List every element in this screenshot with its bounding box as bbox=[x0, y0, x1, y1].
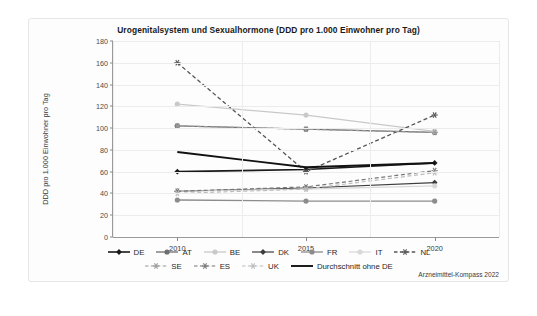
x-gridline bbox=[370, 41, 371, 237]
x-gridline bbox=[113, 41, 114, 237]
series-durchschnitt-ohne-de bbox=[177, 152, 434, 167]
x-gridline bbox=[242, 41, 243, 237]
x-tick-mark bbox=[306, 237, 307, 241]
data-point bbox=[303, 112, 308, 117]
y-gridline bbox=[113, 106, 499, 107]
y-tick-label: 140 bbox=[96, 80, 108, 89]
legend-label: ES bbox=[220, 262, 230, 271]
legend-label: FR bbox=[327, 248, 337, 257]
y-tick-label: 40 bbox=[100, 189, 108, 198]
legend-key-fr-icon bbox=[300, 247, 324, 257]
legend-item-de[interactable]: DE bbox=[107, 247, 145, 257]
y-gridline bbox=[113, 85, 499, 86]
data-point bbox=[432, 198, 437, 203]
legend-item-dk[interactable]: DK bbox=[251, 247, 289, 257]
legend-label: UK bbox=[268, 262, 279, 271]
legend-item-be[interactable]: BE bbox=[203, 247, 240, 257]
data-point bbox=[175, 197, 180, 202]
legend-key-be-icon bbox=[203, 247, 227, 257]
legend-label: NL bbox=[420, 248, 430, 257]
legend-label: DK bbox=[278, 248, 289, 257]
y-tick-label: 20 bbox=[100, 211, 108, 220]
legend-item-it[interactable]: IT bbox=[348, 247, 382, 257]
data-point bbox=[260, 249, 266, 255]
data-point bbox=[116, 249, 122, 255]
legend-key-at-icon bbox=[155, 247, 179, 257]
legend-item-es[interactable]: ES bbox=[193, 261, 230, 271]
legend-key-it-icon bbox=[348, 247, 372, 257]
chart-title: Urogenitalsystem und Sexualhormone (DDD … bbox=[29, 25, 508, 35]
series-canvas bbox=[113, 41, 499, 237]
legend-label: AT bbox=[182, 248, 191, 257]
chart-legend: DEATBEDKFRITNL SEESUKDurchschnitt ohne D… bbox=[29, 245, 508, 273]
legend-label: IT bbox=[375, 248, 382, 257]
legend-label: SE bbox=[171, 262, 181, 271]
plot-inner bbox=[113, 41, 499, 237]
y-tick-label: 100 bbox=[96, 124, 108, 133]
legend-item-fr[interactable]: FR bbox=[300, 247, 337, 257]
series-uk bbox=[174, 170, 438, 196]
data-point bbox=[309, 249, 314, 254]
y-gridline bbox=[113, 193, 499, 194]
y-tick-label: 160 bbox=[96, 58, 108, 67]
legend-key-se-icon bbox=[144, 261, 168, 271]
legend-key-es-icon bbox=[193, 261, 217, 271]
data-point bbox=[303, 198, 308, 203]
x-tick-mark bbox=[435, 237, 436, 241]
legend-item-uk[interactable]: UK bbox=[241, 261, 279, 271]
chart-figure: Urogenitalsystem und Sexualhormone (DDD … bbox=[28, 18, 509, 282]
legend-key-durchschnitt-ohne-de-icon bbox=[290, 261, 314, 271]
legend-key-uk-icon bbox=[241, 261, 265, 271]
y-tick-label: 120 bbox=[96, 102, 108, 111]
y-axis-label: DDD pro 1.000 Einwohner pro Tag bbox=[41, 93, 50, 204]
data-point bbox=[212, 249, 217, 254]
y-gridline bbox=[113, 128, 499, 129]
series-se bbox=[174, 123, 438, 135]
y-gridline bbox=[113, 150, 499, 151]
legend-label: BE bbox=[230, 248, 240, 257]
legend-label: DE bbox=[134, 248, 145, 257]
legend-key-nl-icon bbox=[393, 247, 417, 257]
y-gridline bbox=[113, 63, 499, 64]
legend-row: DEATBEDKFRITNL bbox=[29, 245, 508, 259]
legend-key-de-icon bbox=[107, 247, 131, 257]
series-fr bbox=[175, 197, 438, 203]
legend-label: Durchschnitt ohne DE bbox=[317, 262, 393, 271]
y-tick-label: 60 bbox=[100, 167, 108, 176]
y-gridline bbox=[113, 41, 499, 42]
series-line bbox=[177, 152, 434, 167]
data-point bbox=[165, 249, 170, 254]
legend-item-at[interactable]: AT bbox=[155, 247, 191, 257]
data-point bbox=[358, 249, 363, 254]
source-note: Arzneimittel-Kompass 2022 bbox=[418, 271, 499, 278]
y-tick-label: 180 bbox=[96, 37, 108, 46]
plot-area: 020406080100120140160180201020152020 bbox=[113, 41, 499, 237]
legend-item-nl[interactable]: NL bbox=[393, 247, 430, 257]
x-gridline bbox=[499, 41, 500, 237]
data-point bbox=[432, 183, 437, 188]
y-tick-label: 0 bbox=[104, 233, 108, 242]
legend-item-se[interactable]: SE bbox=[144, 261, 181, 271]
y-gridline bbox=[113, 215, 499, 216]
y-gridline bbox=[113, 172, 499, 173]
legend-key-dk-icon bbox=[251, 247, 275, 257]
y-tick-label: 80 bbox=[100, 145, 108, 154]
x-tick-mark bbox=[177, 237, 178, 241]
legend-item-durchschnitt-ohne-de[interactable]: Durchschnitt ohne DE bbox=[290, 261, 393, 271]
